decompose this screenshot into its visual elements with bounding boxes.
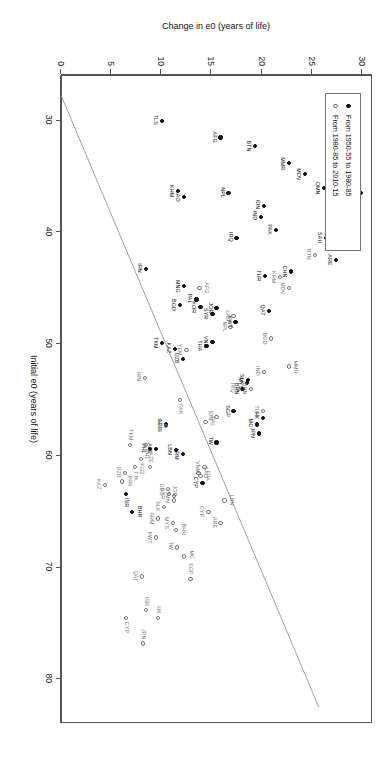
data-point-label: THA: [197, 340, 202, 351]
y-tick-label: 5: [106, 61, 116, 66]
filled-circle-icon: [246, 378, 250, 382]
data-point-label: CHN: [281, 266, 286, 278]
filled-circle-icon: [255, 422, 259, 426]
data-point-label: KAZ: [96, 479, 101, 490]
open-circle-icon: [172, 498, 176, 502]
open-circle-icon: [103, 483, 107, 487]
y-tick-label: 30: [357, 57, 367, 66]
filled-circle-icon: [181, 452, 185, 456]
x-axis-title: Initial e0 (years of life): [29, 75, 39, 723]
open-circle-icon: [144, 608, 148, 612]
x-tick: [56, 120, 61, 121]
x-tick-label: 60: [44, 450, 54, 459]
data-point-label: ARM: [149, 512, 154, 524]
filled-circle-icon: [233, 320, 237, 324]
data-point-label: KHM: [169, 185, 174, 197]
x-tick: [56, 231, 61, 232]
data-point-label: CYP: [193, 477, 198, 488]
filled-circle-icon: [257, 431, 261, 435]
filled-circle-icon: [210, 340, 214, 344]
x-tick: [56, 455, 61, 456]
y-tick: [311, 69, 312, 74]
y-tick: [60, 69, 61, 74]
data-point-label: TJK: [132, 471, 137, 481]
filled-circle-icon: [144, 267, 148, 271]
data-point-label: OMN: [314, 182, 319, 195]
data-point-label: LBN: [167, 444, 172, 455]
legend: From 1950-55 to 1980-85 From 1980-85 to …: [325, 93, 361, 251]
data-point-label: IND: [251, 211, 256, 221]
data-point-label: UZB: [116, 467, 121, 478]
data-point-label: MMR: [279, 157, 284, 170]
data-point-label: IDN: [254, 200, 259, 210]
data-point-label: AZE: [147, 452, 152, 463]
data-point-label: ISR: [143, 597, 148, 606]
data-point-label: PRK: [126, 476, 131, 487]
data-point-label: SGP: [188, 563, 193, 575]
data-point-label: SGP: [224, 405, 229, 417]
open-circle-icon: [231, 314, 235, 318]
data-point-label: IRQ: [227, 232, 232, 242]
data-point-label: YEM: [177, 344, 182, 356]
data-point-label: SYR: [203, 308, 208, 319]
x-tick-label: 50: [44, 338, 54, 347]
y-tick: [261, 69, 262, 74]
open-circle-icon: [228, 325, 232, 329]
rotated-figure-wrapper: YEMPRKOMNMDVMMRBHRARESAUIDNPAKINDCHNBTNA…: [0, 0, 391, 765]
filled-circle-icon: [274, 228, 278, 232]
filled-circle-icon: [259, 215, 263, 219]
filled-circle-icon: [154, 447, 158, 451]
filled-circle-icon: [234, 236, 238, 240]
data-point-label: IRQ: [229, 383, 234, 393]
filled-circle-icon: [160, 341, 164, 345]
filled-circle-icon: [334, 258, 338, 262]
data-point-label: PAK: [178, 404, 183, 415]
data-point-label: TW: [168, 541, 173, 550]
data-point-label: JPN: [249, 428, 254, 438]
x-tick: [56, 567, 61, 568]
y-tick: [210, 69, 211, 74]
y-tick: [110, 69, 111, 74]
open-circle-icon: [139, 457, 143, 461]
open-circle-icon: [218, 521, 222, 525]
data-point-label: BHR: [136, 506, 141, 518]
open-circle-icon: [287, 364, 291, 368]
data-point-label: PAL: [187, 293, 192, 303]
open-circle-icon: [188, 577, 192, 581]
data-point-label: MDV: [295, 168, 300, 180]
filled-circle-icon: [200, 481, 204, 485]
data-point-label: BRN: [241, 383, 246, 395]
open-circle-icon: [313, 253, 317, 257]
open-circle-icon: [156, 616, 160, 620]
data-point-label: CYP: [199, 506, 204, 517]
open-circle-icon: [175, 545, 179, 549]
data-point-label: TW: [207, 436, 212, 445]
y-axis-line: [61, 74, 372, 75]
filled-circle-icon: [214, 306, 218, 310]
data-point-label: AFG: [211, 131, 216, 142]
filled-circle-icon: [303, 172, 307, 176]
data-point-label: PAK: [266, 224, 271, 235]
open-circle-icon: [206, 510, 210, 514]
filled-circle-icon: [182, 195, 186, 199]
x-tick-label: 40: [44, 227, 54, 236]
open-circle-icon: [333, 101, 337, 111]
open-circle-icon: [197, 286, 201, 290]
filled-circle-icon: [346, 101, 350, 111]
y-tick: [160, 69, 161, 74]
open-circle-icon: [171, 521, 175, 525]
filled-circle-icon: [231, 409, 235, 413]
legend-item-period-2: From 1980-85 to 2010-15: [329, 101, 342, 243]
open-circle-icon: [128, 443, 132, 447]
data-point-label: NPL: [219, 187, 224, 198]
filled-circle-icon: [124, 492, 128, 496]
filled-circle-icon: [263, 274, 267, 278]
legend-item-period-1: From 1950-55 to 1980-85: [342, 101, 355, 243]
data-point-label: SAU: [202, 467, 207, 478]
x-tick: [56, 678, 61, 679]
open-circle-icon: [140, 574, 144, 578]
data-point-label: SYR: [160, 488, 165, 499]
data-point-label: AFG: [203, 282, 208, 293]
open-circle-icon: [203, 420, 207, 424]
x-tick: [56, 343, 61, 344]
